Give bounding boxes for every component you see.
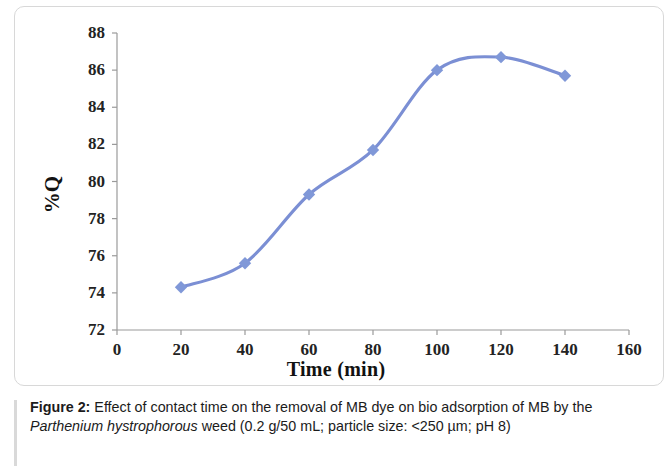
x-axis-tick-label: 100	[424, 340, 450, 360]
figure-caption: Figure 2: Effect of contact time on the …	[14, 398, 654, 435]
x-axis-title: Time (min)	[0, 358, 672, 381]
x-axis-ticks	[117, 330, 629, 335]
data-point-marker	[175, 281, 187, 293]
y-axis-tick-label: 76	[59, 246, 105, 266]
caption-text: Figure 2: Effect of contact time on the …	[14, 398, 654, 435]
data-point-marker	[495, 51, 507, 63]
y-axis-tick-label: 84	[59, 97, 105, 117]
y-axis-tick-label: 80	[59, 172, 105, 192]
y-axis-ticks	[112, 33, 117, 330]
x-axis-tick-label: 80	[365, 340, 382, 360]
caption-sentence-part-1: Effect of contact time on the removal of…	[90, 399, 592, 415]
y-axis-tick-label: 78	[59, 209, 105, 229]
x-axis-tick-label: 20	[173, 340, 190, 360]
x-axis-tick-label: 140	[552, 340, 578, 360]
data-point-markers	[175, 51, 571, 294]
data-series-line	[181, 57, 565, 288]
caption-sentence-part-2: weed (0.2 g/50 mL; particle size: <250 µ…	[198, 418, 511, 434]
y-axis-tick-label: 86	[59, 60, 105, 80]
y-axis-tick-label: 88	[59, 23, 105, 43]
y-axis-title: %Q	[40, 176, 65, 213]
x-axis-tick-label: 0	[113, 340, 122, 360]
caption-species-name: Parthenium hystrophorous	[30, 418, 198, 434]
caption-accent-bar	[14, 400, 17, 466]
x-axis-tick-label: 60	[301, 340, 318, 360]
y-axis-tick-label: 82	[59, 134, 105, 154]
x-axis-tick-label: 40	[237, 340, 254, 360]
x-axis-tick-label: 120	[488, 340, 514, 360]
data-point-marker	[559, 69, 571, 81]
y-axis-tick-label: 72	[59, 320, 105, 340]
caption-figure-label: Figure 2:	[30, 399, 90, 415]
y-axis-tick-label: 74	[59, 283, 105, 303]
x-axis-tick-label: 160	[616, 340, 642, 360]
chart-plot-area: 727476788082848688 020406080100120140160…	[0, 0, 672, 395]
